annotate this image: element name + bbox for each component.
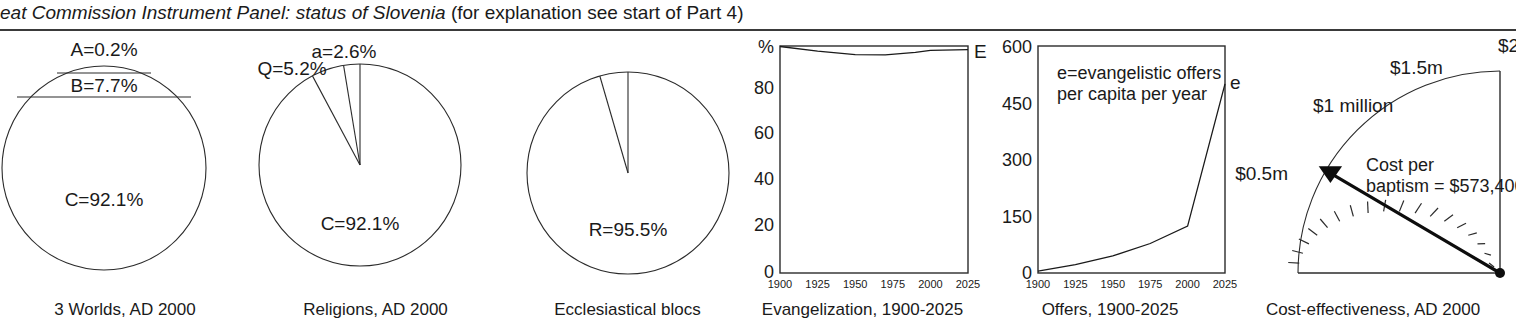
offers-note-line2: per capita per year	[1057, 84, 1207, 104]
three-worlds-diagram: A=0.2% B=7.7% C=92.1%	[0, 34, 250, 294]
offers-xtick-1975: 1975	[1138, 278, 1162, 290]
offers-xtick-1900: 1900	[1026, 278, 1050, 290]
evangelization-xtick-1950: 1950	[843, 278, 867, 290]
gauge-pivot-dot	[1495, 268, 1505, 278]
page-title-rest: (for explanation see start of Part 4)	[446, 2, 744, 23]
evangelization-ytick-80: 80	[754, 78, 774, 98]
caption-three-worlds: 3 Worlds, AD 2000	[0, 300, 250, 320]
page-title-italic: eat Commission Instrument Panel: status …	[0, 2, 446, 23]
evangelization-xtick-1925: 1925	[805, 278, 829, 290]
gauge-needle-arrowhead	[1319, 166, 1342, 183]
three-worlds-label-b: B=7.7%	[70, 75, 137, 96]
blocs-label-r: R=95.5%	[589, 219, 668, 240]
offers-series-line	[1038, 84, 1225, 271]
cost-effectiveness-gauge: $0.5m $1 million $1.5m $2m Cost per bapt…	[1230, 34, 1516, 296]
religions-label-q: Q=5.2%	[257, 58, 326, 79]
blocs-slice-edge-other	[600, 76, 628, 173]
evangelization-xtick-2000: 2000	[918, 278, 942, 290]
offers-line-chart: 600 450 300 150 0 1900 1925 1950 1975 20…	[985, 34, 1235, 296]
religions-pie-diagram: a=2.6% Q=5.2% C=92.1%	[248, 34, 503, 294]
blocs-pie-diagram: R=95.5%	[500, 34, 755, 294]
offers-ytick-150: 150	[1002, 207, 1032, 227]
evangelization-ytick-40: 40	[754, 169, 774, 189]
gauge-tick-label-1m: $1 million	[1313, 95, 1393, 116]
caption-evangelization: Evangelization, 1900-2025	[740, 300, 985, 320]
panel-evangelization: % 80 60 40 20 0 1900 1925 1950 1975 2000…	[740, 34, 985, 320]
gauge-tick-label-2m: $2m	[1498, 35, 1516, 56]
caption-religions: Religions, AD 2000	[248, 300, 503, 320]
offers-xtick-1925: 1925	[1063, 278, 1087, 290]
offers-ytick-450: 450	[1002, 94, 1032, 114]
page-title: eat Commission Instrument Panel: status …	[0, 1, 1516, 25]
panel-three-worlds: A=0.2% B=7.7% C=92.1% 3 Worlds, AD 2000	[0, 34, 250, 320]
instrument-panel: eat Commission Instrument Panel: status …	[0, 0, 1516, 320]
panel-religions: a=2.6% Q=5.2% C=92.1% Religions, AD 2000	[248, 34, 503, 320]
offers-xtick-2000: 2000	[1175, 278, 1199, 290]
three-worlds-label-c: C=92.1%	[65, 189, 144, 210]
caption-ecclesiastical-blocs: Ecclesiastical blocs	[500, 300, 755, 320]
evangelization-series-line	[780, 47, 968, 55]
offers-ytick-300: 300	[1002, 150, 1032, 170]
caption-cost-effectiveness: Cost-effectiveness, AD 2000	[1230, 300, 1516, 320]
panel-offers: 600 450 300 150 0 1900 1925 1950 1975 20…	[985, 34, 1235, 320]
gauge-tick-label-1-5m: $1.5m	[1390, 57, 1443, 78]
three-worlds-label-a: A=0.2%	[70, 39, 137, 60]
gauge-tick-label-0-5m: $0.5m	[1235, 163, 1288, 184]
evangelization-xtick-1975: 1975	[881, 278, 905, 290]
gauge-note-line1: Cost per	[1366, 155, 1434, 175]
evangelization-xtick-1900: 1900	[768, 278, 792, 290]
caption-offers: Offers, 1900-2025	[985, 300, 1235, 320]
panel-ecclesiastical-blocs: R=95.5% Ecclesiastical blocs	[500, 34, 755, 320]
evangelization-ytick-100: %	[758, 37, 774, 57]
offers-xtick-1950: 1950	[1101, 278, 1125, 290]
panel-cost-effectiveness: $0.5m $1 million $1.5m $2m Cost per bapt…	[1230, 34, 1516, 320]
header-divider	[0, 29, 1516, 31]
evangelization-ytick-20: 20	[754, 215, 774, 235]
evangelization-line-chart: % 80 60 40 20 0 1900 1925 1950 1975 2000…	[740, 34, 985, 296]
offers-note-line1: e=evangelistic offers	[1057, 63, 1221, 83]
religions-label-c: C=92.1%	[321, 213, 400, 234]
offers-ytick-600: 600	[1002, 37, 1032, 57]
evangelization-plot-frame	[780, 46, 968, 273]
evangelization-xtick-2025: 2025	[956, 278, 980, 290]
evangelization-ytick-60: 60	[754, 123, 774, 143]
gauge-note-line2: baptism = $573,400	[1366, 176, 1516, 196]
